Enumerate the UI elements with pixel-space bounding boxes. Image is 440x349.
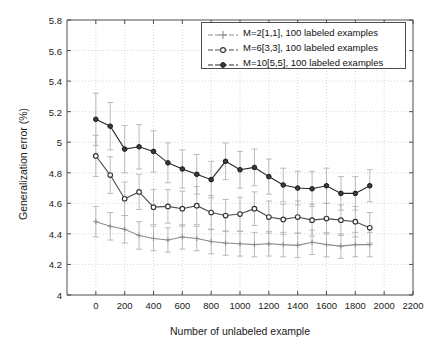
chart-legend: M=2[1,1], 100 labeled examples M=6[3,3],… <box>201 22 406 69</box>
y-tick-4.4: 4.4 <box>30 228 62 239</box>
y-tick-5: 5 <box>30 137 62 148</box>
y-tick-4.6: 4.6 <box>30 198 62 209</box>
legend-label-series-2: M=10[5,5], 100 labeled examples <box>243 57 383 68</box>
legend-item-1: M=6[3,3], 100 labeled examples <box>206 40 378 55</box>
series-0 <box>93 206 373 258</box>
legend-item-2: M=10[5,5], 100 labeled examples <box>206 55 383 70</box>
y-tick-5.4: 5.4 <box>30 76 62 87</box>
x-axis-label: Number of unlabeled example <box>67 325 413 337</box>
legend-swatch-series-1 <box>206 42 240 54</box>
x-tick-2200: 2200 <box>393 300 433 311</box>
legend-item-0: M=2[1,1], 100 labeled examples <box>206 25 378 40</box>
y-tick-4.2: 4.2 <box>30 259 62 270</box>
y-axis-label: Generalization error (%) <box>17 79 29 249</box>
series-1 <box>93 135 373 243</box>
chart-figure: Generalization error (%) Number of unlab… <box>0 0 440 349</box>
y-tick-5.2: 5.2 <box>30 106 62 117</box>
legend-label-series-0: M=2[1,1], 100 labeled examples <box>243 27 378 38</box>
series-2 <box>93 93 373 210</box>
legend-swatch-series-2 <box>206 57 240 69</box>
y-tick-5.8: 5.8 <box>30 15 62 26</box>
y-tick-4.8: 4.8 <box>30 167 62 178</box>
legend-swatch-series-0 <box>206 27 240 39</box>
y-tick-4: 4 <box>30 290 62 301</box>
legend-label-series-1: M=6[3,3], 100 labeled examples <box>243 42 378 53</box>
y-tick-5.6: 5.6 <box>30 45 62 56</box>
